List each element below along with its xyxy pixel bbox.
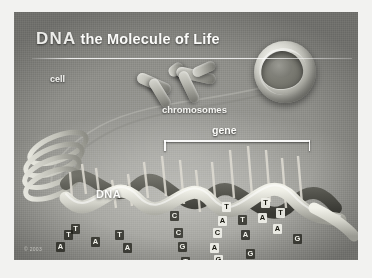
label-dna: DNA [96,188,121,200]
base-letter: T [115,230,124,240]
base-letter: A [210,243,219,253]
base-letter: C [213,228,222,238]
title-rest: the Molecule of Life [80,31,219,47]
base-letter: G [293,234,302,244]
label-cell: cell [50,74,65,84]
base-letter: G [214,255,223,260]
base-letter: A [56,242,65,252]
base-letter: G [178,242,187,252]
base-letter: A [241,230,250,240]
base-letter: T [276,208,285,218]
base-letter: A [258,213,267,223]
base-letter: T [71,224,80,234]
base-letter: A [218,216,227,226]
base-letter: C [174,228,183,238]
base-letter: T [222,202,231,212]
base-letter: T [261,198,270,208]
cell-illustration [250,39,322,111]
base-letter: A [273,224,282,234]
base-letter: A [91,237,100,247]
base-letter: T [181,257,190,260]
base-letters-layer: TATATACCGTATTACAGATTAGTATAGC [14,112,358,252]
base-letter: G [246,249,255,259]
title-underline [32,58,352,59]
base-letter: T [238,215,247,225]
dna-poster: DNAthe Molecule of Life cell chromosomes [0,0,372,278]
credit-line: © 2003 [24,246,42,252]
illustration-plate: DNAthe Molecule of Life cell chromosomes [14,12,358,260]
page-title: DNAthe Molecule of Life [36,29,220,49]
base-letter: A [123,243,132,253]
base-letter: C [170,211,179,221]
title-emphasis: DNA [36,29,76,48]
